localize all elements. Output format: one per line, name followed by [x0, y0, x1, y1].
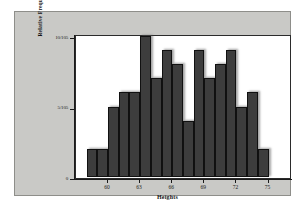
histogram-bar: [119, 92, 130, 177]
y-axis-title: Relative Frequency: [37, 0, 43, 60]
histogram-bar: [97, 149, 108, 177]
histogram-bar: [129, 92, 140, 177]
x-axis-tick: [235, 179, 236, 183]
histogram-bar: [172, 64, 183, 177]
histogram-bar: [87, 149, 98, 177]
y-axis-tick: [70, 109, 75, 110]
x-axis-title: Heights: [15, 194, 305, 200]
x-axis-tick-label: 60: [104, 184, 110, 190]
x-axis-tick: [171, 179, 172, 183]
y-axis-tick-label: 0: [33, 176, 68, 181]
x-axis-tick: [268, 179, 269, 183]
histogram-bar: [236, 107, 247, 178]
y-axis-tick-label: 5/105: [33, 105, 68, 110]
histogram-bar: [140, 36, 151, 177]
histogram-bar: [183, 121, 194, 177]
x-axis-tick: [139, 179, 140, 183]
histogram-bar: [151, 78, 162, 177]
histogram-bar: [258, 149, 269, 177]
bar-series: [78, 36, 290, 177]
plot-area: [75, 35, 291, 179]
y-axis-tick: [70, 38, 75, 39]
x-axis-tick: [203, 179, 204, 183]
y-axis-line: [74, 35, 75, 180]
y-axis-tick: [70, 179, 75, 180]
chart-panel: 05/10510/105 606366697275 Relative Frequ…: [14, 11, 291, 196]
x-axis-tick-label: 66: [168, 184, 174, 190]
histogram-bar: [108, 107, 119, 178]
x-axis-tick-label: 63: [136, 184, 142, 190]
x-axis-tick-label: 72: [233, 184, 239, 190]
histogram-bar: [204, 78, 215, 177]
histogram-bar: [162, 50, 173, 177]
histogram-figure: 05/10510/105 606366697275 Relative Frequ…: [0, 0, 305, 207]
x-axis-tick: [107, 179, 108, 183]
x-axis-tick-label: 69: [201, 184, 207, 190]
x-axis-tick-label: 75: [265, 184, 271, 190]
histogram-bar: [194, 50, 205, 177]
histogram-bar: [247, 92, 258, 177]
histogram-bar: [215, 64, 226, 177]
plot-inner: [76, 36, 290, 178]
histogram-bar: [226, 50, 237, 177]
